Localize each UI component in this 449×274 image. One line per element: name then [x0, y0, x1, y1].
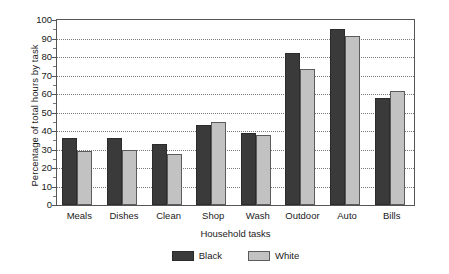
y-axis-tick-mark	[52, 113, 56, 114]
bar-chart: Percentage of total hours by task 010203…	[0, 0, 449, 274]
y-axis-tick-label: 90	[26, 34, 52, 44]
x-axis-tick-label: Shop	[191, 210, 236, 222]
bar-shop-black	[196, 125, 211, 205]
y-axis-tick-label: 0	[26, 200, 52, 210]
y-axis-tick-label: 40	[26, 126, 52, 136]
y-axis-minor-tick-mark	[53, 85, 56, 86]
legend-label: White	[275, 251, 299, 261]
y-axis-tick-label: 60	[26, 89, 52, 99]
bar-wash-black	[241, 133, 256, 205]
x-axis-tick-label: Wash	[236, 210, 281, 222]
bar-clean-white	[167, 154, 182, 205]
y-axis-minor-tick-mark	[53, 159, 56, 160]
y-axis-minor-tick-mark	[53, 29, 56, 30]
bar-outdoor-white	[300, 69, 315, 205]
y-axis-tick-mark	[52, 168, 56, 169]
bar-bills-black	[375, 98, 390, 205]
y-axis-tick-mark	[52, 20, 56, 21]
legend-item-white: White	[248, 251, 299, 261]
y-axis-minor-tick-mark	[53, 103, 56, 104]
legend-swatch-black	[172, 251, 194, 261]
bar-group	[369, 20, 414, 205]
y-axis-tick-label: 70	[26, 71, 52, 81]
bar-group	[280, 20, 325, 205]
y-axis-minor-tick-mark	[53, 48, 56, 49]
legend: BlackWhite	[56, 249, 415, 263]
bar-shop-white	[211, 122, 226, 205]
legend-item-black: Black	[172, 251, 222, 261]
y-axis-tick-mark	[52, 205, 56, 206]
bar-wash-white	[256, 135, 271, 205]
bars-layer	[57, 20, 414, 205]
y-axis-tick-mark	[52, 94, 56, 95]
bar-bills-white	[390, 91, 405, 205]
bar-group	[325, 20, 370, 205]
bar-meals-white	[77, 151, 92, 205]
bar-outdoor-black	[285, 53, 300, 205]
bar-auto-black	[330, 29, 345, 205]
y-axis-minor-tick-mark	[53, 196, 56, 197]
y-axis-tick-mark	[52, 187, 56, 188]
y-axis-tick-mark	[52, 150, 56, 151]
bar-dishes-white	[122, 150, 137, 206]
legend-label: Black	[199, 251, 222, 261]
bar-group	[102, 20, 147, 205]
x-axis-tick-label: Outdoor	[280, 210, 325, 222]
y-axis-tick-label: 30	[26, 145, 52, 155]
y-axis-tick-mark	[52, 131, 56, 132]
x-axis-tick-label: Clean	[146, 210, 191, 222]
bar-dishes-black	[107, 138, 122, 205]
x-axis-tick-label: Dishes	[102, 210, 147, 222]
y-axis-tick-label: 100	[26, 15, 52, 25]
bar-meals-black	[62, 138, 77, 205]
y-axis-tick-mark	[52, 76, 56, 77]
x-axis-tick-label: Meals	[57, 210, 102, 222]
y-axis-tick-labels: 0102030405060708090100	[24, 19, 52, 206]
bar-group	[146, 20, 191, 205]
y-axis-tick-label: 20	[26, 163, 52, 173]
bar-group	[57, 20, 102, 205]
y-axis-minor-tick-mark	[53, 140, 56, 141]
y-axis-minor-tick-mark	[53, 66, 56, 67]
y-axis-minor-tick-mark	[53, 177, 56, 178]
bar-group	[191, 20, 236, 205]
y-axis-tick-label: 10	[26, 182, 52, 192]
y-axis-tick-label: 80	[26, 52, 52, 62]
bar-auto-white	[345, 36, 360, 205]
x-axis-tick-label: Bills	[369, 210, 414, 222]
bar-group	[236, 20, 281, 205]
x-axis-tick-label: Auto	[325, 210, 370, 222]
y-axis-tick-mark	[52, 57, 56, 58]
x-axis-title: Household tasks	[56, 228, 415, 239]
legend-swatch-white	[248, 251, 270, 261]
bar-clean-black	[152, 144, 167, 205]
y-axis-minor-tick-mark	[53, 122, 56, 123]
y-axis-tick-label: 50	[26, 108, 52, 118]
y-axis-tick-mark	[52, 39, 56, 40]
x-axis-tick-labels: MealsDishesCleanShopWashOutdoorAutoBills	[57, 210, 414, 224]
